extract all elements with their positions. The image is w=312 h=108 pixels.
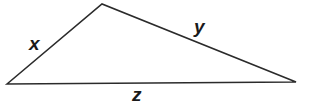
side-label-z: z <box>132 85 142 104</box>
triangle-figure: x y z <box>0 0 312 108</box>
triangle-polygon <box>7 4 296 84</box>
side-label-x: x <box>29 34 40 53</box>
side-label-y: y <box>194 17 205 36</box>
triangle-outline <box>0 0 312 108</box>
